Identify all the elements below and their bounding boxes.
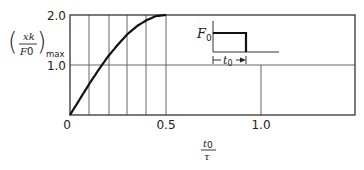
y-label-subscript: max	[46, 49, 65, 59]
y-axis-label: ( xk F0 ) max	[8, 28, 65, 59]
y-label-numerator: xk	[23, 31, 35, 42]
inset-amplitude-label: F0	[196, 26, 212, 43]
inset-pulse-diagram: F0 t0	[196, 21, 279, 68]
y-tick-2.0: 2.0	[47, 9, 66, 23]
x-axis-label: t0 τ	[201, 138, 216, 162]
pulse-shape	[213, 33, 246, 52]
svg-text:(: (	[8, 28, 17, 56]
x-tick-0.5: 0.5	[156, 118, 175, 132]
arrow-head-icon	[240, 58, 246, 63]
x-tick-1.0: 1.0	[251, 118, 270, 132]
shock-spectrum-chart: F0 t0 2.0 1.0 0 0.5 1.0 ( xk F0 ) max t0…	[0, 0, 364, 170]
x-label-denominator: τ	[204, 151, 210, 162]
y-tick-1.0: 1.0	[47, 59, 66, 73]
x-label-numerator: t0	[203, 138, 213, 150]
y-label-denominator: F0	[19, 46, 33, 57]
svg-text:): )	[37, 28, 46, 56]
inset-duration-label: t0	[223, 54, 233, 68]
x-tick-0: 0	[63, 118, 71, 132]
